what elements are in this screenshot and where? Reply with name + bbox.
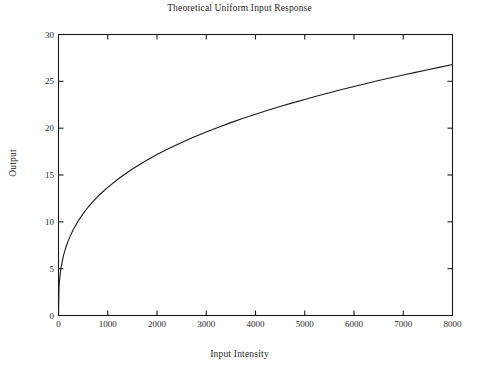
x-tick-labels: 010002000300040005000600070008000 (0, 0, 479, 375)
y-tick-label: 20 (45, 123, 54, 133)
x-tick-label: 5000 (296, 319, 314, 329)
y-tick-label: 5 (50, 264, 55, 274)
y-axis-label: Output (8, 133, 18, 193)
chart-figure: Theoretical Uniform Input Response 01000… (0, 0, 479, 375)
x-axis-label: Input Intensity (0, 349, 479, 359)
y-tick-label: 15 (45, 170, 54, 180)
x-tick-label: 8000 (444, 319, 462, 329)
x-tick-label: 3000 (197, 319, 215, 329)
x-tick-label: 0 (56, 319, 61, 329)
y-tick-label: 30 (45, 30, 54, 40)
y-tick-label: 25 (45, 76, 54, 86)
y-tick-label: 10 (45, 217, 54, 227)
x-tick-label: 6000 (345, 319, 363, 329)
x-tick-label: 7000 (394, 319, 412, 329)
y-tick-label: 0 (50, 311, 55, 321)
x-tick-label: 4000 (247, 319, 265, 329)
x-tick-label: 1000 (99, 319, 117, 329)
x-tick-label: 2000 (148, 319, 166, 329)
